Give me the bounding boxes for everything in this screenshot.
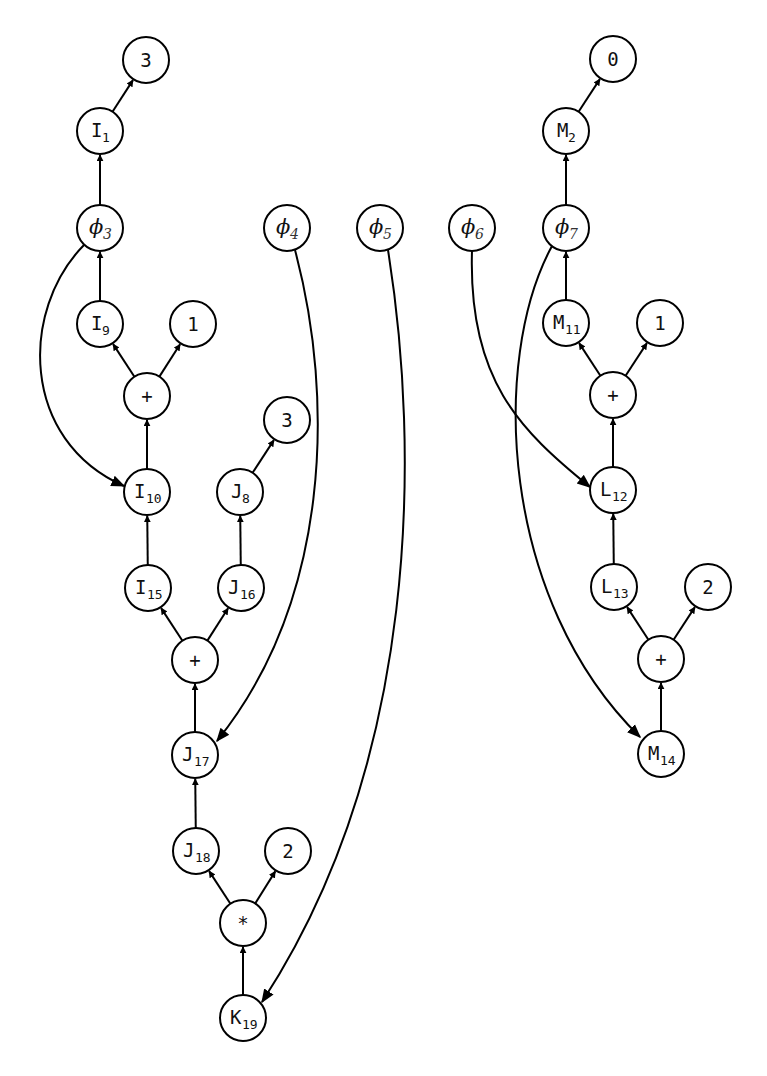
edge-mul-to-J18 bbox=[209, 871, 230, 904]
node-label: 1 bbox=[654, 312, 665, 334]
node-phi3: ϕ3 bbox=[77, 205, 123, 251]
edge-J18-to-J17 bbox=[195, 779, 196, 828]
node-label: I bbox=[91, 119, 102, 141]
node-label: I bbox=[91, 312, 102, 334]
node-c0: 0 bbox=[590, 36, 636, 82]
node-label: 1 bbox=[187, 313, 198, 335]
node-I1: I1 bbox=[77, 108, 123, 154]
node-label: 0 bbox=[607, 48, 618, 70]
node-label: + bbox=[141, 385, 152, 407]
node-subscript: 18 bbox=[195, 850, 211, 865]
node-subscript: 2 bbox=[568, 130, 576, 145]
node-plus2: + bbox=[172, 637, 218, 683]
node-label: L bbox=[601, 575, 612, 597]
node-label: 3 bbox=[140, 49, 151, 71]
node-c3b: 3 bbox=[264, 397, 310, 443]
node-phi6: ϕ6 bbox=[449, 205, 495, 251]
node-label: + bbox=[655, 648, 666, 670]
edge-mul-to-c2a bbox=[255, 871, 275, 903]
node-L12: L12 bbox=[590, 467, 636, 513]
edge-J8-to-c3b bbox=[253, 440, 274, 473]
node-subscript: 6 bbox=[475, 226, 484, 242]
node-label: M bbox=[553, 311, 564, 333]
node-label: J bbox=[228, 576, 239, 598]
node-label: 3 bbox=[281, 409, 292, 431]
node-J18: J18 bbox=[173, 828, 219, 874]
node-subscript: 16 bbox=[240, 587, 256, 602]
node-subscript: 12 bbox=[612, 489, 628, 504]
node-c2b: 2 bbox=[685, 564, 731, 610]
node-layer: 3I1ϕ3I91+I103J8I15J16+J17J182*K19ϕ4ϕ5ϕ60… bbox=[77, 36, 731, 1041]
node-label: M bbox=[557, 119, 568, 141]
edge-plus1-to-c1a bbox=[159, 344, 180, 376]
node-label: M bbox=[648, 742, 659, 764]
node-subscript: 3 bbox=[103, 226, 112, 242]
node-label: + bbox=[607, 384, 618, 406]
node-phi4: ϕ4 bbox=[264, 205, 310, 251]
edge-plus2-to-I15 bbox=[161, 608, 182, 641]
node-subscript: 5 bbox=[383, 226, 392, 242]
node-label: ϕ bbox=[555, 215, 569, 239]
node-label: ϕ bbox=[89, 215, 103, 239]
node-phi7: ϕ7 bbox=[543, 205, 589, 251]
node-L13: L13 bbox=[591, 564, 637, 610]
node-label: 2 bbox=[282, 840, 293, 862]
node-c1b: 1 bbox=[637, 300, 683, 346]
node-c2a: 2 bbox=[265, 828, 311, 874]
node-M14: M14 bbox=[638, 731, 684, 777]
node-label: ϕ bbox=[461, 215, 475, 239]
node-label: * bbox=[237, 912, 248, 934]
node-plus1: + bbox=[124, 373, 170, 419]
node-label: K bbox=[230, 1006, 242, 1028]
node-label: J bbox=[231, 480, 242, 502]
edge-J16-to-J8 bbox=[240, 516, 241, 565]
edge-plus2-to-J16 bbox=[207, 608, 228, 640]
edge-plus4-to-c2b bbox=[674, 607, 695, 640]
edge-plus1-to-I9 bbox=[113, 344, 134, 377]
node-I9: I9 bbox=[77, 301, 123, 347]
edge-L13-to-L12 bbox=[613, 514, 614, 564]
node-subscript: 14 bbox=[660, 753, 676, 768]
edge-phi6-to-L12 bbox=[472, 251, 590, 487]
dataflow-graph: 3I1ϕ3I91+I103J8I15J16+J17J182*K19ϕ4ϕ5ϕ60… bbox=[0, 0, 767, 1076]
node-subscript: 10 bbox=[146, 491, 162, 506]
node-label: L bbox=[600, 478, 611, 500]
node-subscript: 7 bbox=[569, 226, 578, 242]
node-c3a: 3 bbox=[123, 37, 169, 83]
node-M2: M2 bbox=[543, 108, 589, 154]
node-c1a: 1 bbox=[170, 301, 216, 347]
node-I15: I15 bbox=[125, 565, 171, 611]
node-subscript: 11 bbox=[565, 322, 581, 337]
node-mul: * bbox=[220, 900, 266, 946]
node-plus4: + bbox=[638, 636, 684, 682]
node-label: ϕ bbox=[276, 215, 290, 239]
node-subscript: 15 bbox=[147, 587, 163, 602]
node-label: J bbox=[183, 839, 194, 861]
node-subscript: 8 bbox=[242, 491, 250, 506]
node-J17: J17 bbox=[172, 732, 218, 778]
node-subscript: 4 bbox=[289, 226, 299, 242]
edge-phi3-to-I10 bbox=[40, 245, 124, 486]
node-subscript: 9 bbox=[102, 323, 110, 338]
node-J16: J16 bbox=[218, 565, 264, 611]
node-M11: M11 bbox=[543, 300, 589, 346]
edge-plus3-to-M11 bbox=[579, 343, 600, 376]
node-plus3: + bbox=[590, 372, 636, 418]
node-phi5: ϕ5 bbox=[357, 205, 403, 251]
node-subscript: 17 bbox=[194, 754, 210, 769]
node-subscript: 19 bbox=[242, 1017, 258, 1032]
node-J8: J8 bbox=[217, 469, 263, 515]
node-I10: I10 bbox=[124, 469, 170, 515]
node-subscript: 1 bbox=[102, 130, 110, 145]
node-K19: K19 bbox=[220, 995, 266, 1041]
edge-I1-to-c3a bbox=[113, 80, 133, 112]
node-label: I bbox=[135, 576, 146, 598]
node-label: J bbox=[182, 743, 193, 765]
edge-I15-to-I10 bbox=[147, 516, 148, 565]
node-label: ϕ bbox=[369, 215, 383, 239]
edge-plus3-to-c1b bbox=[626, 343, 647, 376]
node-label: 2 bbox=[702, 576, 713, 598]
edge-plus4-to-L13 bbox=[627, 607, 648, 640]
node-label: I bbox=[134, 480, 145, 502]
node-label: + bbox=[189, 649, 200, 671]
